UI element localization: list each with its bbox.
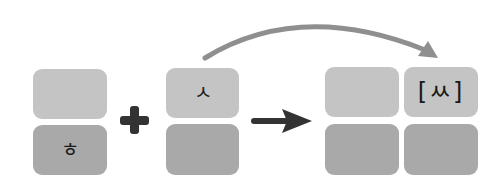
left-top-box bbox=[33, 69, 107, 119]
result-top-right-box: [ㅆ] bbox=[404, 67, 478, 117]
result-top-left-box bbox=[325, 67, 399, 117]
right-arrow-icon bbox=[254, 109, 312, 133]
left-bottom-label: ㅎ bbox=[61, 140, 79, 160]
middle-top-box: ㅅ bbox=[166, 68, 239, 118]
middle-bottom-box bbox=[166, 124, 239, 175]
result-bottom-left-box bbox=[325, 124, 399, 175]
curved-arrow-icon bbox=[205, 27, 425, 58]
plus-icon bbox=[120, 106, 149, 134]
result-bottom-right-box bbox=[404, 124, 478, 175]
middle-top-label: ㅅ bbox=[194, 83, 212, 103]
left-bottom-box: ㅎ bbox=[33, 125, 107, 175]
result-top-right-label: [ㅆ] bbox=[418, 80, 465, 104]
diagram-canvas: ㅎ ㅅ [ㅆ] bbox=[0, 0, 503, 183]
